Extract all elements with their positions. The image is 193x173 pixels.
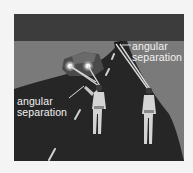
label-line-2: separation — [132, 52, 182, 63]
label-angular-separation-lower: angular separation — [17, 96, 67, 118]
label-angular-separation-upper: angular separation — [132, 41, 182, 63]
dark-sky-band — [14, 14, 184, 41]
scene-graphic — [14, 14, 184, 161]
label-line-2: separation — [17, 107, 67, 118]
angular-separation-illustration: angular separation angular separation — [14, 14, 184, 161]
